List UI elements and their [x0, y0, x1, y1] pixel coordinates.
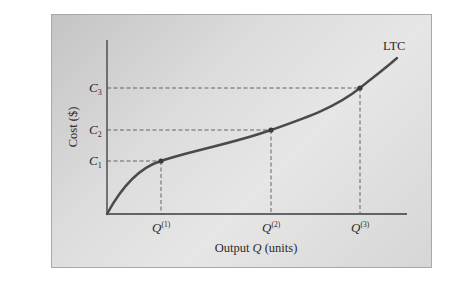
y-axis-title: Cost ($) [66, 107, 80, 148]
x-tick-q2: Q(2) [262, 220, 281, 235]
x-tick-q3: Q(3) [351, 220, 370, 235]
ltc-chart: LTC C3 C2 C1 Q(1) Q(2) Q(3) Cost ($) Out… [0, 0, 453, 281]
x-axis-title: Output Q (units) [215, 241, 298, 255]
y-tick-c3: C3 [89, 80, 102, 97]
point-q1-c1 [158, 158, 163, 163]
curve-label: LTC [383, 39, 405, 53]
y-tick-c1: C1 [89, 153, 102, 170]
point-q3-c3 [357, 85, 362, 90]
y-tick-c2: C2 [89, 122, 102, 139]
ltc-curve [107, 58, 397, 214]
point-q2-c2 [268, 127, 273, 132]
guide-lines [107, 88, 360, 214]
x-tick-q1: Q(1) [152, 220, 171, 235]
